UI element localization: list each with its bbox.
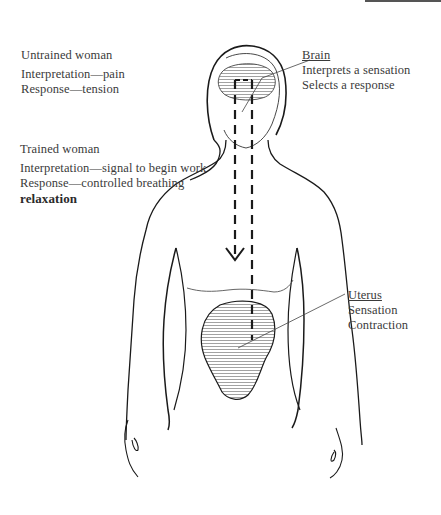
uterus-line1: Sensation xyxy=(348,303,408,318)
ribline xyxy=(187,280,293,292)
untrained-woman-label: Untrained woman Interpretation—pain Resp… xyxy=(21,48,125,97)
torso-right xyxy=(292,248,304,428)
uterus-label: Uterus Sensation Contraction xyxy=(348,288,408,333)
untrained-interpretation: Interpretation—pain xyxy=(21,67,125,82)
untrained-title: Untrained woman xyxy=(21,48,125,63)
torso-left xyxy=(163,248,176,430)
brain-line2: Selects a response xyxy=(302,78,410,93)
right-hand xyxy=(330,428,343,478)
brain-label: Brain Interprets a sensation Selects a r… xyxy=(302,48,410,93)
trained-response: Response—controlled breathing xyxy=(20,176,206,191)
brain-line1: Interprets a sensation xyxy=(302,63,410,78)
brain-title: Brain xyxy=(302,48,410,63)
trained-extra: relaxation xyxy=(20,191,206,206)
right-arm-inner xyxy=(288,248,300,410)
untrained-response: Response—tension xyxy=(21,82,125,97)
trained-woman-label: Trained woman Interpretation—signal to b… xyxy=(20,142,206,206)
uterus-line2: Contraction xyxy=(348,318,408,333)
trained-title: Trained woman xyxy=(20,142,206,157)
uterus-title: Uterus xyxy=(348,288,408,303)
diagram: Untrained woman Interpretation—pain Resp… xyxy=(0,0,441,515)
trained-interpretation: Interpretation—signal to begin work xyxy=(20,161,206,176)
uterus-shape xyxy=(198,296,280,404)
left-arm-inner xyxy=(174,248,186,410)
